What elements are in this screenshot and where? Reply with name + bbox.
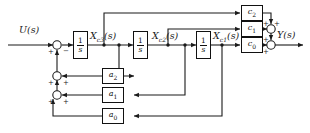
sign-sum-out-upper-plus-left: + [263,21,269,28]
integrator-block-1[interactable]: 1 s [73,31,88,59]
gain-c0-subscript: 0 [252,43,256,50]
feedforward-gain-block-c2[interactable]: c2 [241,5,263,21]
output-signal-label: Y(s) [277,30,296,40]
sign-sum-a1-plus-left: + [48,99,54,106]
node-xc1 [220,43,223,46]
node-xc2-b [183,43,186,46]
gain-a2-subscript: 2 [113,74,117,81]
integrator-3-denominator: s [201,46,207,54]
state-label-xc1-paren: (s) [227,30,239,41]
state-label-xc2-base: X [152,30,159,41]
feedforward-gain-block-c1[interactable]: c1 [241,21,263,37]
integrator-3-numerator: 1 [200,37,207,45]
integrator-2-numerator: 1 [137,37,144,45]
sum-a2-circle [53,72,61,80]
wire-a0-to-sum [53,99,102,116]
sign-sum-a2-plus-right: + [63,80,69,87]
feedback-gain-block-a0[interactable]: a0 [102,108,124,124]
sign-sum-out-lower-plus-top: + [263,37,269,44]
feedback-gain-block-a1[interactable]: a1 [102,87,124,103]
state-label-xc3-base: X [90,30,97,41]
node-xc3-b [117,43,120,46]
feedforward-gain-block-c0[interactable]: c0 [241,37,263,53]
state-label-xc3: Xc3(s) [90,31,116,43]
integrator-block-2[interactable]: 1 s [133,31,148,59]
feedback-gain-block-a2[interactable]: a2 [102,68,124,84]
sign-sum-input-plus: + [48,49,54,56]
sign-sum-a1-plus-right: + [63,99,69,106]
gain-a0-subscript: 0 [113,114,117,121]
sign-sum-input-minus: − [63,48,69,55]
state-label-xc3-sub: c3 [97,36,104,43]
sign-sum-out-upper-plus-right: + [274,21,280,28]
state-label-xc1: Xc1(s) [213,31,239,43]
input-signal-label: U(s) [19,25,39,35]
gain-c1-subscript: 1 [252,27,256,34]
state-label-xc3-paren: (s) [104,30,116,41]
integrator-1-numerator: 1 [77,37,84,45]
gain-c2-subscript: 2 [252,11,256,18]
sum-input-circle [53,41,61,49]
gain-a1-subscript: 1 [113,93,117,100]
sum-a1-circle [53,91,61,99]
sign-sum-out-lower-plus-bottom: + [263,49,269,56]
integrator-block-3[interactable]: 1 s [196,31,211,59]
state-label-xc2: Xc2(s) [152,31,178,43]
block-diagram-canvas: U(s) Y(s) Xc3(s) Xc2(s) Xc1(s) 1 s 1 s 1… [0,0,310,133]
node-xc2 [166,43,169,46]
state-label-xc2-paren: (s) [166,30,178,41]
integrator-2-denominator: s [138,46,144,54]
integrator-1-denominator: s [78,46,84,54]
state-label-xc2-sub: c2 [159,36,166,43]
node-xc3 [102,43,105,46]
state-label-xc1-sub: c1 [220,36,227,43]
state-label-xc1-base: X [213,30,220,41]
sign-sum-a2-plus-left: + [48,80,54,87]
